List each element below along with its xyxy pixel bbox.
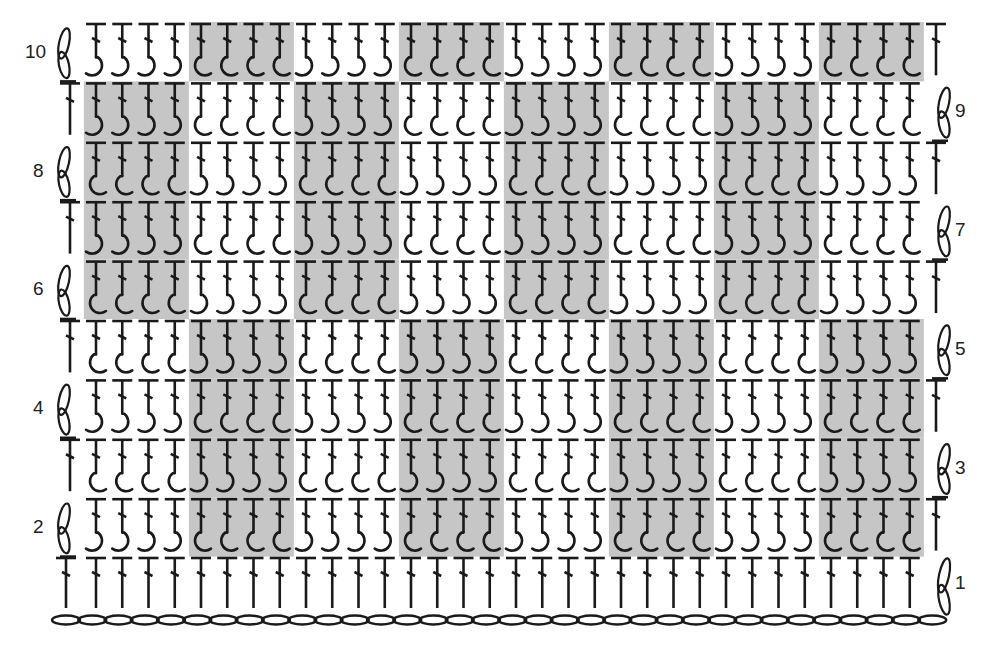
front-post-dc-icon (217, 143, 237, 194)
back-post-dc-icon (480, 83, 500, 134)
back-post-dc-icon (769, 440, 789, 491)
back-post-dc-icon (165, 440, 185, 491)
front-post-dc-icon (795, 380, 815, 431)
back-post-dc-icon (559, 440, 579, 491)
chain-stitch-icon (918, 616, 946, 625)
back-post-dc-icon (244, 83, 264, 134)
front-post-dc-icon (480, 143, 500, 194)
front-post-dc-icon (191, 262, 211, 313)
back-post-dc-icon (847, 202, 867, 253)
front-post-dc-icon (532, 499, 552, 550)
back-post-dc-icon (742, 440, 762, 491)
front-post-dc-icon (322, 499, 342, 550)
crochet-chart (0, 0, 987, 651)
turning-chain-icon (936, 205, 952, 257)
back-post-dc-icon (454, 83, 474, 134)
front-post-dc-icon (480, 262, 500, 313)
front-post-dc-icon (690, 262, 710, 313)
chain-stitch-icon (603, 616, 631, 625)
chain-stitch-icon (892, 616, 920, 625)
front-post-dc-icon (191, 143, 211, 194)
front-post-dc-icon (401, 262, 421, 313)
front-post-dc-icon (375, 380, 395, 431)
front-post-dc-icon (716, 499, 736, 550)
back-post-dc-icon (296, 321, 316, 372)
front-post-dc-icon (506, 380, 526, 431)
chain-stitch-icon (341, 616, 369, 625)
back-post-dc-icon (86, 440, 106, 491)
front-post-dc-icon (821, 143, 841, 194)
front-post-dc-icon (139, 24, 159, 75)
back-post-dc-icon (769, 321, 789, 372)
front-post-dc-icon (795, 24, 815, 75)
turning-chain-icon (56, 146, 72, 198)
front-post-dc-icon (585, 24, 605, 75)
chain-stitch-icon (236, 616, 264, 625)
back-post-dc-icon (900, 83, 920, 134)
front-post-dc-icon (742, 24, 762, 75)
chain-stitch-icon (708, 616, 736, 625)
row-label-9: 9 (955, 101, 966, 120)
back-post-dc-icon (611, 202, 631, 253)
front-post-dc-icon (769, 499, 789, 550)
chain-stitch-icon (761, 616, 789, 625)
back-post-dc-icon (112, 440, 132, 491)
back-post-dc-icon (585, 440, 605, 491)
chain-stitch-icon (105, 616, 133, 625)
front-post-dc-icon (270, 262, 290, 313)
front-post-dc-icon (296, 24, 316, 75)
back-post-dc-icon (86, 321, 106, 372)
front-post-dc-icon (874, 143, 894, 194)
front-post-dc-icon (769, 380, 789, 431)
back-post-dc-icon (270, 202, 290, 253)
chain-stitch-icon (52, 616, 80, 625)
chain-stitch-icon (551, 616, 579, 625)
front-post-dc-icon (716, 380, 736, 431)
back-post-dc-icon (427, 202, 447, 253)
row-label-10: 10 (25, 42, 46, 61)
back-post-dc-icon (506, 321, 526, 372)
back-post-dc-icon (532, 321, 552, 372)
back-post-dc-icon (690, 83, 710, 134)
front-post-dc-icon (664, 262, 684, 313)
front-post-dc-icon (322, 380, 342, 431)
back-post-dc-icon (847, 83, 867, 134)
back-post-dc-icon (716, 440, 736, 491)
front-post-dc-icon (847, 262, 867, 313)
front-post-dc-icon (874, 262, 894, 313)
front-post-dc-icon (296, 499, 316, 550)
front-post-dc-icon (112, 380, 132, 431)
front-post-dc-icon (270, 143, 290, 194)
turning-chain-icon (936, 324, 952, 376)
foundation-chain (52, 616, 946, 625)
back-post-dc-icon (664, 83, 684, 134)
front-post-dc-icon (427, 143, 447, 194)
turning-chain-icon (56, 27, 72, 79)
row-label-6: 6 (33, 279, 44, 298)
back-post-dc-icon (401, 202, 421, 253)
turning-chain-icon (56, 502, 72, 554)
front-post-dc-icon (506, 499, 526, 550)
back-post-dc-icon (322, 321, 342, 372)
chain-stitch-icon (157, 616, 185, 625)
back-post-dc-icon (795, 440, 815, 491)
chain-stitch-icon (420, 616, 448, 625)
front-post-dc-icon (165, 24, 185, 75)
chain-stitch-icon (866, 616, 894, 625)
back-post-dc-icon (217, 202, 237, 253)
back-post-dc-icon (296, 440, 316, 491)
front-post-dc-icon (165, 380, 185, 431)
front-post-dc-icon (559, 24, 579, 75)
front-post-dc-icon (112, 24, 132, 75)
chain-stitch-icon (210, 616, 238, 625)
turning-chain-icon (936, 87, 952, 139)
front-post-dc-icon (244, 262, 264, 313)
back-post-dc-icon (821, 83, 841, 134)
front-post-dc-icon (821, 262, 841, 313)
front-post-dc-icon (900, 262, 920, 313)
back-post-dc-icon (716, 321, 736, 372)
chain-stitch-icon (577, 616, 605, 625)
front-post-dc-icon (375, 499, 395, 550)
back-post-dc-icon (795, 321, 815, 372)
back-post-dc-icon (191, 83, 211, 134)
